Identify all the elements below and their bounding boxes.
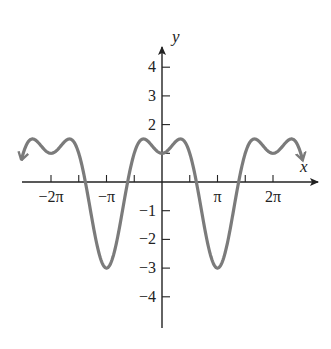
y-axis-label: y: [170, 27, 180, 46]
y-tick-label: 2: [148, 116, 156, 133]
x-axis-label: x: [299, 157, 308, 176]
y-tick-label: −2: [139, 230, 156, 247]
x-tick-label: −2π: [38, 188, 63, 205]
x-tick-label: 2π: [265, 188, 281, 205]
y-tick-label: −1: [139, 202, 156, 219]
y-tick-label: 3: [148, 87, 156, 104]
y-tick-label: 4: [148, 58, 156, 75]
x-axis-ticks: −2π−ππ2π: [38, 175, 281, 205]
y-tick-label: −3: [139, 259, 156, 276]
x-tick-label: π: [213, 188, 221, 205]
y-tick-label: −4: [139, 288, 156, 305]
function-graph: −2π−ππ2π 432−1−2−3−4 x y: [0, 0, 331, 349]
x-tick-label: −π: [98, 188, 115, 205]
